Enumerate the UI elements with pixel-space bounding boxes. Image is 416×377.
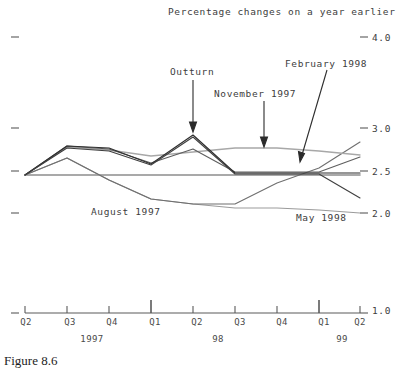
arrow-head-november xyxy=(261,137,268,147)
arrow-head-february xyxy=(299,152,305,163)
y-axis-left-ticks xyxy=(11,37,19,313)
y-axis-right-ticks xyxy=(360,37,368,313)
chart-plot-area xyxy=(0,0,416,377)
x-axis-ticks xyxy=(25,300,360,313)
series-may-1998 xyxy=(25,158,360,213)
arrow-line-february xyxy=(302,70,327,155)
series-outturn xyxy=(25,135,360,175)
figure-8-6: Percentage changes on a year earlier 4.0… xyxy=(0,0,416,377)
arrow-head-outturn xyxy=(190,122,197,132)
series-lines xyxy=(25,135,360,213)
